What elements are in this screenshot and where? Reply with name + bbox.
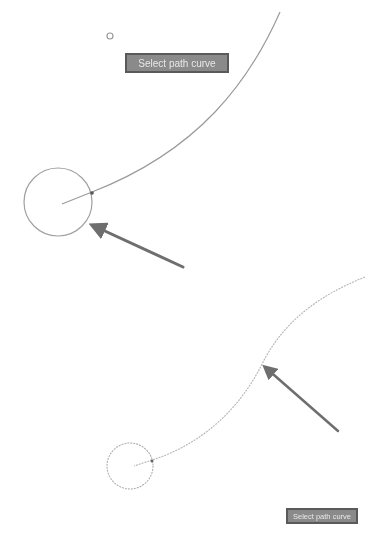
path-curve-bottom[interactable] [134, 277, 365, 466]
selection-circle-top[interactable] [24, 168, 92, 236]
pointer-arrow-bottom-icon [266, 368, 338, 431]
select-path-curve-label-bottom: Select path curve [286, 508, 358, 524]
select-path-curve-label-top: Select path curve [125, 53, 229, 73]
small-circle-marker-icon [107, 33, 113, 39]
top-panel [24, 12, 280, 267]
label-text: Select path curve [138, 58, 215, 69]
pointer-arrow-top-icon [94, 226, 183, 267]
diagram-canvas [0, 0, 383, 536]
path-curve-top[interactable] [62, 12, 280, 204]
selection-circle-bottom[interactable] [107, 443, 153, 489]
label-text: Select path curve [293, 512, 351, 521]
bottom-panel [107, 277, 365, 489]
curve-endpoint-dot-bottom [151, 460, 154, 463]
curve-endpoint-dot-top [90, 191, 94, 195]
